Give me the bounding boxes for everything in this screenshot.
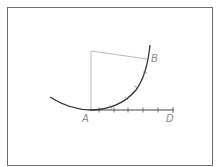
diagram-canvas: A B D	[0, 0, 220, 167]
label-b: B	[151, 53, 158, 64]
label-a: A	[81, 113, 89, 124]
construction-line-to-b	[91, 51, 147, 59]
label-d: D	[166, 113, 174, 124]
curve-ticks	[110, 72, 147, 109]
involute-curve	[50, 45, 150, 110]
